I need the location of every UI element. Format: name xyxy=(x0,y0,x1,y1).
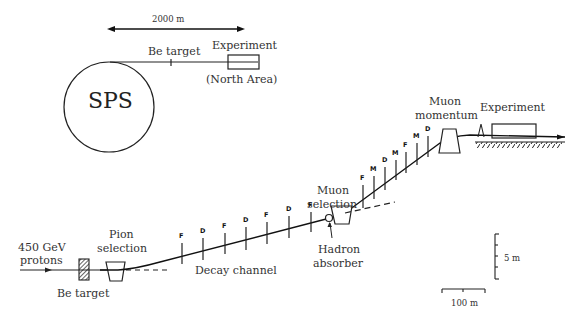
proton-beam xyxy=(20,268,108,273)
pion-label-1: Pion xyxy=(109,229,134,241)
magnet-label: F xyxy=(222,222,226,230)
muon-selection-label-1: Muon xyxy=(317,185,349,197)
magnet-label: M xyxy=(370,165,376,173)
magnet-label: F xyxy=(403,141,407,149)
hadron-label-1: Hadron xyxy=(318,244,360,256)
muon-momentum-label-1: Muon xyxy=(429,96,461,108)
magnet-label: D xyxy=(382,156,387,164)
experiment-label: Experiment xyxy=(480,102,545,114)
vertical-scale-label: 5 m xyxy=(504,252,520,264)
sps-label: SPS xyxy=(88,95,133,107)
beam-energy-label: 450 GeV xyxy=(18,242,66,254)
magnet-label: F xyxy=(360,174,364,182)
pion-label-2: selection xyxy=(97,243,147,255)
magnet-label: M xyxy=(392,149,398,157)
overview-target-label: Be target xyxy=(148,46,200,58)
magnet-label: M xyxy=(413,132,419,140)
decay-channel-label: Decay channel xyxy=(195,265,277,277)
horizontal-scale-label: 100 m xyxy=(451,297,478,309)
hadron-pointer-head xyxy=(328,222,333,227)
magnet-label: D xyxy=(243,216,248,224)
beam-end-arrow xyxy=(557,135,565,140)
overview-experiment-label: Experiment xyxy=(212,40,277,52)
distance-arrow xyxy=(107,26,245,32)
magnet-label: D xyxy=(286,205,291,213)
muon-momentum-label-2: momentum xyxy=(415,110,478,122)
ground-hatch xyxy=(475,142,562,148)
magnet-label: F xyxy=(264,211,268,219)
be-target-block xyxy=(79,259,89,280)
beam-particle-label: protons xyxy=(20,255,63,267)
pion-selection-magnet xyxy=(106,262,125,281)
magnet-label: D xyxy=(200,227,205,235)
vertical-scale-bar xyxy=(495,234,499,279)
north-area-label: (North Area) xyxy=(206,74,277,86)
muon-momentum-magnet xyxy=(439,129,460,153)
horizontal-scale-bar xyxy=(442,289,485,293)
diagram-drawing xyxy=(0,0,584,317)
magnet-label: D xyxy=(425,125,430,133)
magnet-label: F xyxy=(179,232,183,240)
hadron-absorber xyxy=(326,215,333,222)
muon-selection-label-2: selection xyxy=(307,199,357,211)
magnet-label: F xyxy=(308,201,312,209)
distance-label: 2000 m xyxy=(152,13,184,25)
hadron-label-2: absorber xyxy=(313,258,363,270)
be-target-label: Be target xyxy=(57,288,109,300)
